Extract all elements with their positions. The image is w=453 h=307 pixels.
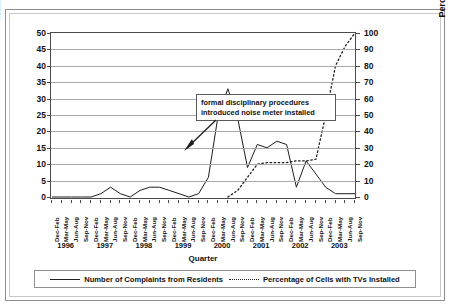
x-tick-label: Jun-Aug — [151, 217, 157, 242]
gridline — [51, 164, 355, 165]
y-tickmark-right — [356, 99, 360, 100]
x-tickmark — [295, 200, 296, 203]
y-tickmark-right — [356, 131, 360, 132]
x-tick-label: Jun-Aug — [73, 217, 79, 242]
y-tick-left: 25 — [24, 111, 46, 119]
legend-label-tv-percentage: Percentage of Cells with TVs Installed — [263, 275, 400, 284]
y-tick-right: 30 — [364, 144, 390, 152]
x-year-label: 1996 — [46, 241, 86, 251]
x-tickmark — [305, 200, 306, 203]
x-tickmark — [325, 200, 326, 203]
y-tick-right: 40 — [364, 127, 390, 135]
x-tickmark — [266, 200, 267, 203]
x-year-label: 2003 — [319, 241, 359, 251]
y-tickmark-right — [356, 33, 360, 34]
x-tick-label: Jun-Aug — [269, 217, 275, 242]
x-tick-label: Dec-Feb — [132, 218, 138, 242]
y-tickmark-right — [356, 49, 360, 50]
x-tickmark — [80, 200, 81, 203]
x-tick-label: Jun-Aug — [190, 217, 196, 242]
y-tick-right: 0 — [364, 193, 390, 201]
x-year-label: 1997 — [85, 241, 125, 251]
y-tick-right: 60 — [364, 95, 390, 103]
x-tick-label: Dec-Feb — [93, 218, 99, 242]
x-tickmark — [217, 200, 218, 203]
x-tickmark — [149, 200, 150, 203]
y-tick-left: 10 — [24, 160, 46, 168]
x-tick-label: Mar-May — [259, 217, 265, 242]
x-tick-label: Dec-Feb — [54, 218, 60, 242]
annotation-line-1: formal disciplinary procedures — [201, 98, 331, 108]
x-tick-label: Dec-Feb — [288, 218, 294, 242]
x-tickmark — [344, 200, 345, 203]
x-axis-tick-labels: Dec-FebMar-MayJun-AugSep-NovDec-FebMar-M… — [50, 200, 356, 246]
x-tickmark — [61, 200, 62, 203]
y-tick-right: 90 — [364, 45, 390, 53]
x-tick-label: Mar-May — [63, 217, 69, 242]
x-tick-label: Sep-Nov — [122, 217, 128, 242]
x-tickmark — [139, 200, 140, 203]
x-tickmark — [188, 200, 189, 203]
x-tick-label: Mar-May — [298, 217, 304, 242]
legend-item-complaints: Number of Complaints from Residents — [50, 275, 223, 284]
y-tick-left: 40 — [24, 62, 46, 70]
x-tick-label: Sep-Nov — [357, 217, 363, 242]
y-tick-left: 5 — [24, 177, 46, 185]
x-tickmark — [119, 200, 120, 203]
x-tick-label: Sep-Nov — [200, 217, 206, 242]
annotation-line-2: introduced noise meter installed — [201, 108, 331, 118]
y-tick-right: 70 — [364, 78, 390, 86]
x-tickmark — [71, 200, 72, 203]
x-tickmark — [168, 200, 169, 203]
x-axis-title: Quarter — [50, 254, 356, 263]
x-tick-label: Sep-Nov — [278, 217, 284, 242]
y-tick-right: 80 — [364, 62, 390, 70]
x-tick-label: Dec-Feb — [171, 218, 177, 242]
x-tick-label: Jun-Aug — [112, 217, 118, 242]
y-tick-right: 50 — [364, 111, 390, 119]
x-tickmark — [100, 200, 101, 203]
x-tick-label: Dec-Feb — [210, 218, 216, 242]
x-tick-label: Dec-Feb — [327, 218, 333, 242]
x-tickmark — [110, 200, 111, 203]
x-tickmark — [207, 200, 208, 203]
y-tick-left: 0 — [24, 193, 46, 201]
y-tick-left: 50 — [24, 29, 46, 37]
x-tick-label: Dec-Feb — [249, 218, 255, 242]
x-tick-label: Sep-Nov — [83, 217, 89, 242]
x-tick-label: Jun-Aug — [308, 217, 314, 242]
annotation-callout: formal disciplinary procedures introduce… — [196, 94, 336, 121]
x-year-label: 2000 — [202, 241, 242, 251]
x-tickmark — [256, 200, 257, 203]
top-caption-fragment — [6, 0, 126, 7]
solid-line-icon — [50, 279, 80, 280]
x-tick-label: Sep-Nov — [161, 217, 167, 242]
x-year-label: 2002 — [280, 241, 320, 251]
y-tickmark-right — [356, 115, 360, 116]
x-tick-label: Jun-Aug — [230, 217, 236, 242]
x-tick-label: Mar-May — [181, 217, 187, 242]
y-tick-left: 45 — [24, 45, 46, 53]
x-tickmark — [286, 200, 287, 203]
y-tick-right: 100 — [364, 29, 390, 37]
x-tickmark — [335, 200, 336, 203]
gridline — [51, 66, 355, 67]
x-year-label: 1998 — [124, 241, 164, 251]
x-tickmark — [198, 200, 199, 203]
x-tick-label: Mar-May — [337, 217, 343, 242]
gridline — [51, 181, 355, 182]
x-tickmark — [354, 200, 355, 203]
y-tick-left: 20 — [24, 127, 46, 135]
y-tick-right: 10 — [364, 177, 390, 185]
chart-legend: Number of Complaints from Residents Perc… — [34, 270, 416, 288]
y-tick-left: 35 — [24, 78, 46, 86]
y-tickmark-right — [356, 66, 360, 67]
y-axis-left-title: Number of Complaints from Residents — [0, 0, 2, 24]
y-tick-left: 15 — [24, 144, 46, 152]
chart-figure: Number of Complaints from Residents Perc… — [0, 0, 453, 307]
x-tickmark — [159, 200, 160, 203]
gridline — [51, 82, 355, 83]
legend-label-complaints: Number of Complaints from Residents — [84, 275, 223, 284]
x-tickmark — [178, 200, 179, 203]
y-tick-left: 30 — [24, 95, 46, 103]
